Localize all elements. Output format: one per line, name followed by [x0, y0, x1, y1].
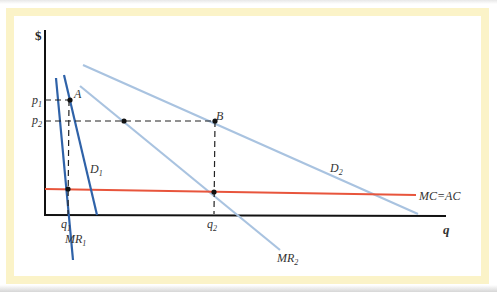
- x-axis-label: q: [443, 222, 450, 237]
- q2-guide: [214, 121, 215, 214]
- p1-label: p1: [31, 93, 42, 109]
- p2-label: p2: [31, 113, 42, 129]
- y-axis-label: $: [35, 28, 42, 43]
- mr2-label: MR2: [276, 251, 298, 267]
- d2-label: D2: [329, 161, 343, 177]
- point-a-label: A: [73, 87, 82, 101]
- x-axis: [44, 215, 446, 216]
- point-d2-p2: [121, 118, 126, 123]
- monopoly-diagram: $ q p1 p2 A B D1 D2 q1 q2 MR1 MR2 MC=AC: [0, 0, 497, 292]
- mr1-label: MR1: [64, 232, 86, 248]
- mr2-curve: [80, 86, 280, 250]
- q2-label: q2: [207, 217, 217, 233]
- point-q2-mc: [211, 189, 216, 194]
- mc-ac-label: MC=AC: [418, 189, 461, 203]
- point-b-label: B: [216, 109, 224, 123]
- point-a: [67, 97, 72, 102]
- d1-label: D1: [89, 162, 103, 178]
- point-q1-mc: [65, 186, 70, 191]
- bottom-edge: [0, 285, 497, 292]
- mc-ac-line: [45, 189, 416, 195]
